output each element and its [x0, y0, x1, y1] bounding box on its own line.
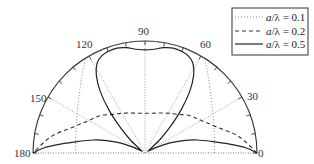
- minor-tick-130: [73, 67, 76, 70]
- angle-label-180: 180: [14, 147, 31, 159]
- grid-spoke-60: [145, 56, 201, 153]
- series-a-lambda-0.1: [76, 41, 215, 153]
- minor-tick-80: [164, 43, 165, 47]
- grid-spokes: [48, 41, 242, 153]
- minor-tick-140: [59, 81, 62, 84]
- minor-tick-10: [251, 134, 255, 135]
- legend: a/λ = 0.1 a/λ = 0.2 a/λ = 0.5: [232, 8, 308, 55]
- minor-tick-30: [239, 97, 242, 99]
- outer-arc: [33, 41, 257, 153]
- grid-spoke-150: [48, 97, 145, 153]
- minor-ticks: [33, 41, 257, 153]
- angle-label-0: 0: [258, 147, 264, 159]
- angle-label-30: 30: [247, 90, 259, 102]
- minor-tick-50: [214, 67, 217, 70]
- grid-spoke-30: [145, 97, 242, 153]
- minor-tick-120: [89, 56, 91, 59]
- angle-label-90: 90: [138, 25, 150, 37]
- minor-tick-60: [199, 56, 201, 59]
- angle-label-120: 120: [76, 38, 93, 50]
- legend-label-0.1: a/λ = 0.1: [266, 11, 305, 23]
- polar-chart: 0 30 60 90 120 150 180 a/λ = 0.1 a/λ = 0…: [0, 0, 314, 164]
- minor-tick-160: [40, 115, 44, 116]
- minor-tick-170: [35, 134, 39, 135]
- angle-label-150: 150: [30, 92, 47, 104]
- minor-tick-20: [247, 115, 251, 116]
- angle-label-60: 60: [200, 38, 212, 50]
- minor-tick-100: [126, 43, 127, 47]
- grid-spoke-120: [89, 56, 145, 153]
- minor-tick-150: [48, 97, 51, 99]
- legend-label-0.2: a/λ = 0.2: [266, 25, 305, 37]
- minor-tick-40: [228, 81, 231, 84]
- legend-label-0.5: a/λ = 0.5: [266, 38, 306, 50]
